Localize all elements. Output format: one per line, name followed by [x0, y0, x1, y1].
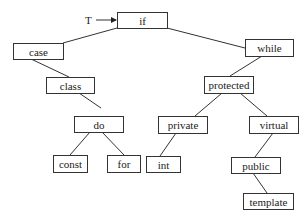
edge-do-const: [70, 132, 90, 155]
node-label: public: [242, 160, 270, 172]
node-label: template: [250, 196, 288, 208]
nodes-group: ifcasewhileclassprotecteddoprivatevirtua…: [14, 13, 299, 210]
node-label: for: [118, 158, 131, 170]
node-label: class: [60, 80, 81, 92]
tree-node-case: case: [14, 44, 64, 60]
tree-node-if: if: [118, 13, 168, 29]
edge-if-while: [167, 28, 245, 48]
tree-node-private: private: [159, 117, 208, 134]
tree-node-template: template: [244, 194, 294, 210]
node-label: if: [139, 15, 146, 27]
edge-while-protected: [230, 56, 262, 76]
edge-if-case: [63, 28, 117, 43]
tree-node-while: while: [246, 40, 294, 57]
node-label: do: [94, 119, 106, 131]
tree-node-for: for: [108, 156, 141, 173]
edge-protected-virtual: [240, 93, 267, 116]
node-label: case: [29, 46, 48, 58]
tree-node-protected: protected: [205, 77, 254, 94]
tree-diagram: T ifcasewhileclassprotecteddoprivatevirt…: [0, 0, 304, 216]
node-label: while: [257, 42, 282, 54]
tree-node-public: public: [232, 158, 281, 174]
edge-virtual-public: [255, 133, 273, 157]
edge-private-int: [160, 133, 176, 156]
node-label: virtual: [260, 119, 289, 131]
node-label: private: [168, 119, 199, 131]
tree-node-const: const: [54, 156, 88, 173]
edge-class-do: [79, 93, 101, 108]
node-label: protected: [209, 79, 250, 91]
node-label: const: [59, 158, 82, 170]
tree-node-virtual: virtual: [250, 117, 299, 134]
edge-protected-private: [195, 93, 222, 116]
root-pointer-label: T: [85, 14, 92, 26]
root-pointer: T: [85, 14, 116, 26]
edge-public-template: [253, 173, 267, 193]
tree-node-int: int: [147, 157, 181, 173]
tree-node-class: class: [47, 78, 95, 94]
node-label: int: [158, 159, 170, 171]
edge-do-for: [102, 132, 124, 155]
edge-case-class: [31, 59, 69, 77]
tree-node-do: do: [75, 117, 124, 133]
